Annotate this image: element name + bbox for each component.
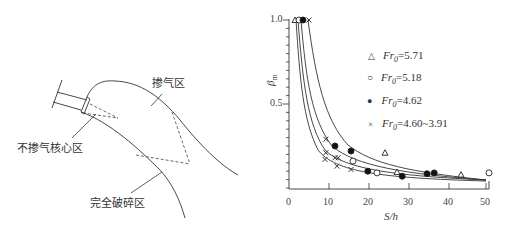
data-point xyxy=(486,170,492,176)
x-axis-label: S/h xyxy=(384,210,398,222)
data-point xyxy=(424,171,430,177)
x-tick-30: 30 xyxy=(403,196,413,207)
data-point xyxy=(300,17,306,23)
data-point xyxy=(307,18,312,23)
legend-item-fr462: ●Fr0=4.62 xyxy=(367,94,422,109)
legend-item-fr571: △Fr0=5.71 xyxy=(368,49,423,64)
cross-marker-icon: × xyxy=(368,119,373,129)
data-point xyxy=(458,172,464,178)
data-point xyxy=(335,164,340,169)
y-tick-0.5: 0.5 xyxy=(270,97,283,108)
triangle-marker-icon: △ xyxy=(368,51,375,61)
y-axis-label: βm xyxy=(264,74,279,86)
open-circle-marker-icon: ○ xyxy=(367,72,373,83)
y-tick-1.0: 1.0 xyxy=(270,13,283,24)
filled-circle-marker-icon: ● xyxy=(367,96,372,106)
data-point xyxy=(431,170,437,176)
x-tick-40: 40 xyxy=(443,196,453,207)
data-point xyxy=(365,168,371,174)
x-tick-10: 10 xyxy=(323,196,333,207)
data-point xyxy=(348,148,354,154)
data-point xyxy=(399,173,405,179)
data-point xyxy=(382,150,388,156)
data-point xyxy=(332,143,338,149)
beta-chart xyxy=(0,0,509,231)
legend-item-fr460-391: ×Fr0=4.60~3.91 xyxy=(368,117,448,132)
data-point xyxy=(374,170,380,176)
x-tick-0: 0 xyxy=(286,196,291,207)
legend-item-fr518: ○Fr0=5.18 xyxy=(367,71,422,86)
x-tick-50: 50 xyxy=(480,196,490,207)
data-point xyxy=(323,157,328,162)
data-point xyxy=(350,158,356,164)
x-tick-20: 20 xyxy=(363,196,373,207)
